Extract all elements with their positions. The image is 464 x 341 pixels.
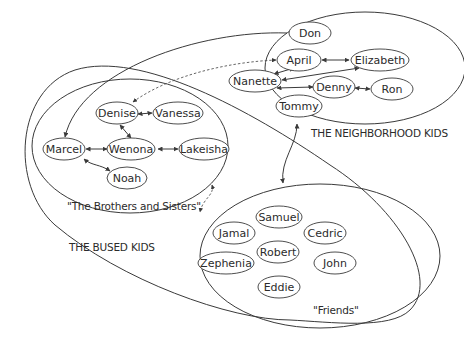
svg-text:Elizabeth: Elizabeth: [355, 54, 406, 67]
friends-label: "Friends": [313, 304, 359, 316]
edge-denise-vanessa: [138, 113, 152, 114]
node-april: April: [277, 49, 321, 71]
edge-neighborhood-friends: [283, 124, 297, 183]
edge-brothers-friends: [200, 185, 212, 212]
edge-nanette-denny: [277, 87, 313, 88]
node-marcel: Marcel: [43, 138, 85, 160]
edge-denise-wenona: [120, 125, 131, 138]
node-jamal: Jamal: [213, 222, 255, 244]
svg-text:Marcel: Marcel: [46, 143, 82, 156]
svg-text:Ron: Ron: [382, 83, 403, 96]
edge-denny-ron: [355, 88, 370, 89]
svg-text:John: John: [322, 257, 347, 270]
edge-marcel-noah: [84, 159, 110, 171]
bused-kids-boundary: [25, 66, 420, 323]
node-robert: Robert: [257, 241, 299, 263]
svg-text:Samuel: Samuel: [258, 211, 299, 224]
node-vanessa: Vanessa: [153, 102, 203, 124]
svg-text:Zephenia: Zephenia: [200, 257, 252, 270]
node-ron: Ron: [371, 78, 413, 100]
svg-text:Jamal: Jamal: [218, 227, 250, 240]
node-wenona: Wenona: [107, 138, 155, 160]
node-denise: Denise: [96, 102, 138, 124]
svg-text:Tommy: Tommy: [278, 100, 319, 113]
node-lakeisha: Lakeisha: [179, 138, 229, 160]
node-john: John: [314, 252, 356, 274]
svg-text:Cedric: Cedric: [307, 227, 342, 240]
bused-kids-label: THE BUSED KIDS: [68, 241, 155, 253]
node-cedric: Cedric: [304, 222, 346, 244]
svg-text:Nanette: Nanette: [233, 75, 277, 88]
node-don: Don: [289, 22, 331, 44]
node-eddie: Eddie: [258, 276, 300, 298]
svg-text:Lakeisha: Lakeisha: [180, 143, 228, 156]
node-nanette: Nanette: [229, 70, 281, 92]
svg-text:Denny: Denny: [316, 81, 352, 94]
svg-text:Wenona: Wenona: [109, 143, 153, 156]
svg-text:April: April: [286, 54, 311, 67]
node-noah: Noah: [107, 167, 147, 189]
svg-text:Denise: Denise: [98, 107, 136, 120]
node-tommy: Tommy: [276, 95, 322, 117]
node-zephenia: Zephenia: [198, 252, 254, 274]
svg-text:Don: Don: [299, 27, 321, 40]
cut-off-caption: [0, 333, 464, 341]
node-samuel: Samuel: [256, 206, 302, 228]
node-elizabeth: Elizabeth: [351, 49, 409, 71]
svg-text:Noah: Noah: [113, 172, 142, 185]
svg-text:Vanessa: Vanessa: [155, 107, 200, 120]
svg-text:Eddie: Eddie: [264, 281, 295, 294]
node-denny: Denny: [313, 76, 355, 98]
svg-text:Robert: Robert: [260, 246, 297, 259]
neighborhood-kids-label: THE NEIGHBORHOOD KIDS: [310, 127, 448, 139]
social-network-diagram: Don April Elizabeth Nanette Denny Ron To…: [0, 0, 464, 341]
brothers-and-sisters-label: "The Brothers and Sisters": [67, 200, 201, 212]
